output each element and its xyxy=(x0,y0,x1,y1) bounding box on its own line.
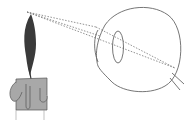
lens-icon xyxy=(113,31,124,63)
candle-icon xyxy=(10,14,47,120)
light-rays xyxy=(27,12,175,68)
eye-candle-diagram xyxy=(0,0,192,122)
flame-icon xyxy=(24,14,36,76)
